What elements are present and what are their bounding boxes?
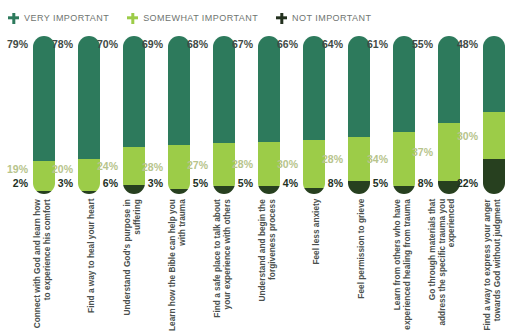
value-label-somewhat: 34% — [367, 154, 388, 165]
category-label: Go through materials that address the sp… — [428, 199, 457, 333]
value-label-not: 8% — [328, 178, 343, 189]
bar-segment[interactable] — [33, 36, 55, 161]
category-label: Find a way to heal your heart — [87, 199, 97, 333]
bar-segment[interactable] — [168, 36, 190, 145]
value-label-very: 48% — [457, 39, 478, 50]
category-label: Feel less anxiety — [312, 199, 322, 333]
bar-group[interactable]: 55%37%8% — [438, 36, 460, 194]
stacked-bar[interactable] — [393, 36, 415, 194]
value-label-not: 5% — [193, 178, 208, 189]
legend-label: VERY IMPORTANT — [24, 13, 109, 23]
value-label-not: 3% — [58, 178, 73, 189]
value-label-very: 66% — [277, 39, 298, 50]
value-label-somewhat: 19% — [7, 164, 28, 175]
plus-icon — [8, 13, 19, 24]
category-label: Learn from others who have experienced h… — [393, 199, 412, 333]
value-label-somewhat: 27% — [187, 160, 208, 171]
bar-segment[interactable] — [303, 188, 325, 194]
bar-segment[interactable] — [78, 36, 100, 159]
value-label-not: 8% — [418, 178, 433, 189]
value-label-not: 5% — [238, 178, 253, 189]
plus-icon — [276, 13, 287, 24]
stacked-bar[interactable] — [438, 36, 460, 194]
legend-label: SOMEWHAT IMPORTANT — [143, 13, 258, 23]
bar-segment[interactable] — [393, 36, 415, 132]
plus-icon — [127, 13, 138, 24]
bar-segment[interactable] — [348, 36, 370, 137]
value-label-somewhat: 30% — [457, 131, 478, 142]
bar-segment[interactable] — [258, 36, 280, 142]
bar-segment[interactable] — [123, 36, 145, 147]
bar-segment[interactable] — [123, 185, 145, 194]
value-label-not: 2% — [13, 178, 28, 189]
bar-group[interactable]: 61%34%5% — [393, 36, 415, 194]
bar-segment[interactable] — [393, 186, 415, 194]
value-label-not: 5% — [373, 178, 388, 189]
category-label: Learn how the Bible can help you with tr… — [168, 199, 187, 333]
bar-segment[interactable] — [303, 36, 325, 140]
value-label-very: 61% — [367, 39, 388, 50]
category-label: Feel permission to grieve — [357, 199, 367, 333]
legend-item-not[interactable]: NOT IMPORTANT — [276, 13, 371, 24]
chart-legend: VERY IMPORTANTSOMEWHAT IMPORTANTNOT IMPO… — [8, 9, 371, 27]
value-label-not: 3% — [148, 178, 163, 189]
bar-segment[interactable] — [168, 189, 190, 194]
bar-group[interactable]: 66%30%4% — [303, 36, 325, 194]
bar-segment[interactable] — [213, 36, 235, 143]
stacked-bar-plot-area: 79%19%2%78%20%3%70%24%6%69%28%3%68%27%5%… — [0, 36, 527, 194]
value-label-very: 55% — [412, 39, 433, 50]
value-label-somewhat: 28% — [232, 159, 253, 170]
category-label: Connect with God and learn how to experi… — [33, 199, 52, 333]
value-label-very: 78% — [52, 39, 73, 50]
category-label: Find a safe place to talk about your exp… — [213, 199, 232, 333]
value-label-very: 68% — [187, 39, 208, 50]
value-label-very: 79% — [7, 39, 28, 50]
value-label-very: 64% — [322, 39, 343, 50]
stacked-bar[interactable] — [213, 36, 235, 194]
legend-item-somewhat[interactable]: SOMEWHAT IMPORTANT — [127, 13, 258, 24]
bar-segment[interactable] — [348, 181, 370, 194]
value-label-somewhat: 28% — [142, 162, 163, 173]
bar-segment[interactable] — [483, 112, 505, 159]
stacked-bar[interactable] — [303, 36, 325, 194]
value-label-very: 69% — [142, 39, 163, 50]
value-label-not: 6% — [103, 178, 118, 189]
bar-group[interactable]: 68%27%5% — [213, 36, 235, 194]
value-label-very: 67% — [232, 39, 253, 50]
value-label-somewhat: 28% — [322, 154, 343, 165]
stacked-bar[interactable] — [258, 36, 280, 194]
bar-group[interactable]: 48%30%22% — [483, 36, 505, 194]
bar-segment[interactable] — [213, 186, 235, 194]
bar-segment[interactable] — [258, 186, 280, 194]
bar-segment[interactable] — [393, 132, 415, 186]
value-label-very: 70% — [97, 39, 118, 50]
category-label: Understand God's purpose in suffering — [123, 199, 142, 333]
bar-segment[interactable] — [483, 36, 505, 112]
category-label: Find a way to express your anger towards… — [483, 199, 502, 333]
bar-segment[interactable] — [483, 159, 505, 194]
category-label: Understand and begin the forgiveness pro… — [258, 199, 277, 333]
value-label-somewhat: 30% — [277, 159, 298, 170]
legend-label: NOT IMPORTANT — [292, 13, 371, 23]
bar-group[interactable]: 67%28%5% — [258, 36, 280, 194]
bar-segment[interactable] — [78, 191, 100, 194]
value-label-somewhat: 24% — [97, 161, 118, 172]
value-label-not: 4% — [283, 178, 298, 189]
value-label-somewhat: 37% — [412, 147, 433, 158]
bar-group[interactable]: 64%28%8% — [348, 36, 370, 194]
legend-item-very[interactable]: VERY IMPORTANT — [8, 13, 109, 24]
stacked-bar[interactable] — [483, 36, 505, 194]
value-label-not: 22% — [457, 178, 478, 189]
category-axis-labels: Connect with God and learn how to experi… — [0, 196, 527, 333]
bar-segment[interactable] — [33, 191, 55, 194]
stacked-bar[interactable] — [348, 36, 370, 194]
value-label-somewhat: 20% — [52, 164, 73, 175]
